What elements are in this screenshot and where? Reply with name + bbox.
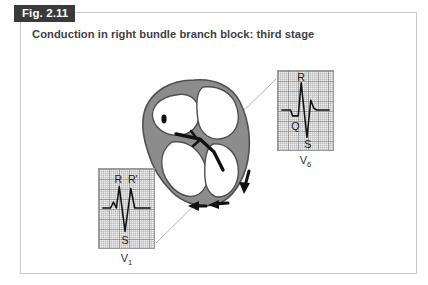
ecg-panel-v6: R Q S V6 bbox=[277, 70, 334, 169]
lead-letter: V bbox=[121, 252, 128, 264]
wave-label-r-prime: R' bbox=[128, 173, 138, 185]
lead-label-v6: V6 bbox=[277, 154, 334, 169]
ecg-panel-v1: R R' S V1 bbox=[98, 168, 155, 267]
lead-letter: V bbox=[300, 154, 307, 166]
wave-label-r: R bbox=[114, 173, 122, 185]
diagram-canvas bbox=[0, 0, 428, 285]
figure-title: Conduction in right bundle branch block:… bbox=[32, 28, 314, 40]
figure-container: Fig. 2.11 Conduction in right bundle bra… bbox=[0, 0, 428, 285]
ecg-labels-v1: R R' S bbox=[99, 169, 154, 248]
ecg-grid-v6: R Q S bbox=[277, 70, 334, 151]
figure-number-tab: Fig. 2.11 bbox=[14, 5, 75, 22]
wave-label-s: S bbox=[122, 234, 129, 246]
wave-label-r: R bbox=[297, 71, 305, 83]
lead-number: 1 bbox=[128, 258, 132, 267]
lead-number: 6 bbox=[307, 160, 311, 169]
wave-label-q: Q bbox=[291, 119, 299, 131]
lead-label-v1: V1 bbox=[98, 252, 155, 267]
sa-node-dot bbox=[161, 115, 166, 124]
heart-cross-section bbox=[143, 80, 250, 211]
wave-label-s: S bbox=[304, 138, 311, 150]
ecg-grid-v1: R R' S bbox=[98, 168, 155, 249]
ecg-labels-v6: R Q S bbox=[278, 71, 333, 150]
